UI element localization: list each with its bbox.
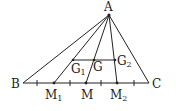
label-M2: M2 <box>110 88 127 103</box>
label-M: M <box>81 88 93 102</box>
geometry-diagram: A B C M1 M M2 G1 G G2 <box>0 0 176 111</box>
label-G2: G2 <box>117 54 132 69</box>
label-G1: G1 <box>71 62 86 77</box>
label-M1: M1 <box>45 88 62 103</box>
segment-AC <box>109 15 149 83</box>
label-B: B <box>11 77 20 91</box>
label-C: C <box>152 77 161 91</box>
label-A: A <box>103 0 113 14</box>
segment-AM2 <box>109 15 117 83</box>
label-G: G <box>93 60 103 74</box>
